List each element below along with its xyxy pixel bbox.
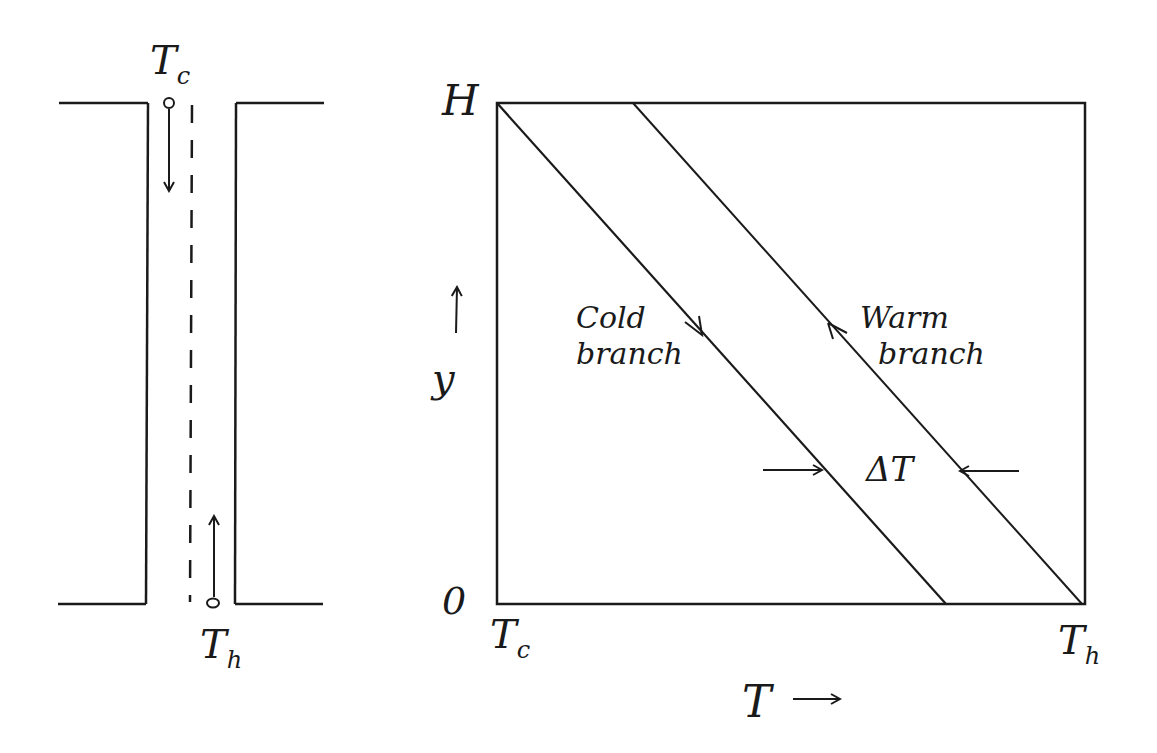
warm-branch-line [633,103,1082,604]
hot-inlet-marker [207,599,219,608]
warm-branch-label: Warm branch [860,300,985,372]
x-right-label-sub: h [1085,642,1100,670]
schematic-bottom-label-sub: h [227,646,242,674]
channel-left-wall [146,103,148,604]
warm-branch-label-line1: Warm [860,300,985,336]
schematic-top-label: Tc [150,40,190,80]
diagram-canvas [0,0,1157,753]
x-left-label: Tc [490,614,530,654]
dashed-partition [190,105,192,602]
schematic-top-label-main: T [150,37,177,83]
delta-t-label: ΔT [866,452,913,486]
x-left-label-main: T [490,611,517,657]
schematic-bottom-label-main: T [200,621,227,667]
channel-right-wall [235,103,236,604]
cold-branch-label-line2: branch [576,336,683,372]
y-axis-arrow-icon [456,287,457,333]
channel-schematic [58,98,324,608]
cold-flow-arrow-icon [685,316,702,335]
x-right-label: Th [1058,620,1100,660]
cold-branch-label-line1: Cold [576,300,683,336]
temperature-profile-chart [456,103,1085,699]
cold-inlet-marker [164,98,174,108]
schematic-top-label-sub: c [177,62,190,90]
x-left-label-sub: c [517,636,530,664]
schematic-bottom-label: Th [200,624,242,664]
x-right-label-main: T [1058,617,1085,663]
y-top-label: H [442,80,479,122]
x-axis-label: T [742,680,771,724]
cold-branch-label: Cold branch [576,300,683,372]
y-bottom-label: 0 [442,582,466,620]
y-axis-label: y [432,358,455,398]
warm-branch-label-line2: branch [860,336,985,372]
